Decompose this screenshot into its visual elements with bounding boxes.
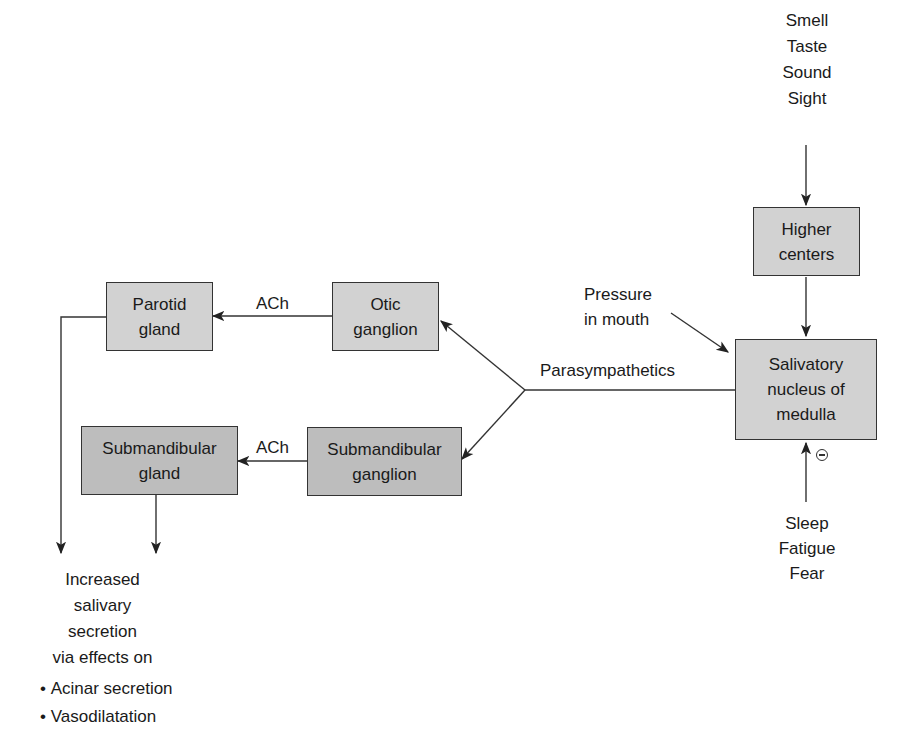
ach-label-top: ACh [256, 291, 289, 316]
submandibular-gland-box: Submandibular gland [81, 426, 238, 495]
arrow-to-submandibular-ganglion [462, 390, 525, 459]
effect-item: Acinar secretion [40, 675, 173, 703]
inhibitors-label: Sleep Fatigue Fear [766, 511, 848, 586]
salivation-control-diagram: Smell Taste Sound Sight Higher centers P… [0, 0, 917, 743]
arrow-to-otic-ganglion [441, 321, 525, 390]
salivatory-nucleus-box: Salivatory nucleus of medulla [735, 339, 877, 440]
submandibular-ganglion-box: Submandibular ganglion [307, 427, 462, 496]
inhibition-icon [816, 449, 828, 461]
higher-centers-box: Higher centers [753, 207, 860, 276]
effect-item: Vasodilatation [40, 703, 173, 731]
secretion-effects-list: Acinar secretion Vasodilatation [40, 675, 173, 731]
parasympathetics-label: Parasympathetics [540, 358, 675, 383]
stimuli-label: Smell Taste Sound Sight [765, 8, 849, 112]
parotid-gland-box: Parotid gland [106, 282, 213, 351]
increased-secretion-label: Increased salivary secretion via effects… [30, 567, 175, 671]
pressure-in-mouth-label: Pressure in mouth [584, 282, 674, 332]
arrow-pressure-to-nucleus [671, 313, 728, 352]
otic-ganglion-box: Otic ganglion [332, 282, 439, 351]
ach-label-bottom: ACh [256, 435, 289, 460]
